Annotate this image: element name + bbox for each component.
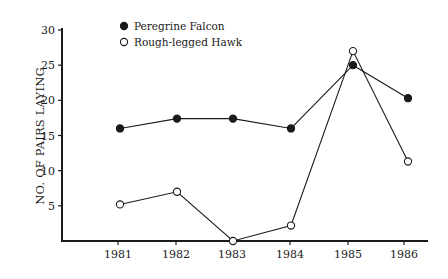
y-tick-label: 30 bbox=[41, 24, 55, 37]
filled-circle-marker bbox=[229, 115, 236, 122]
filled-circle-marker bbox=[116, 125, 123, 132]
open-circle-marker bbox=[287, 222, 294, 229]
open-circle-marker bbox=[173, 188, 180, 195]
series-peregrine-falcon bbox=[116, 62, 411, 133]
y-tick-label: 5 bbox=[48, 200, 55, 213]
open-circle-marker bbox=[229, 237, 236, 244]
y-axis-title: NO. OF PAIRS LAYING bbox=[33, 67, 47, 205]
open-circle-marker bbox=[349, 48, 356, 55]
legend: Peregrine FalconRough-legged Hawk bbox=[120, 20, 242, 48]
series-line bbox=[120, 51, 408, 241]
x-tick-label: 1986 bbox=[390, 248, 418, 261]
x-tick-label: 1983 bbox=[218, 248, 246, 261]
filled-circle-marker bbox=[287, 125, 294, 132]
x-tick-label: 1985 bbox=[334, 248, 362, 261]
filled-circle-marker bbox=[349, 62, 356, 69]
series-rough-legged-hawk bbox=[116, 48, 411, 245]
legend-open-circle-icon bbox=[120, 38, 127, 45]
filled-circle-marker bbox=[404, 95, 411, 102]
legend-label: Rough-legged Hawk bbox=[134, 36, 243, 48]
filled-circle-marker bbox=[173, 115, 180, 122]
x-tick-label: 1981 bbox=[104, 248, 132, 261]
x-tick-label: 1984 bbox=[276, 248, 304, 261]
axes: 51015202530198119821983198419851986 bbox=[41, 24, 428, 261]
open-circle-marker bbox=[116, 201, 123, 208]
x-tick-label: 1982 bbox=[162, 248, 190, 261]
legend-filled-circle-icon bbox=[120, 22, 127, 29]
series-group bbox=[116, 48, 411, 245]
legend-label: Peregrine Falcon bbox=[134, 20, 225, 32]
open-circle-marker bbox=[404, 158, 411, 165]
line-chart: 51015202530198119821983198419851986 Pere… bbox=[0, 0, 448, 279]
